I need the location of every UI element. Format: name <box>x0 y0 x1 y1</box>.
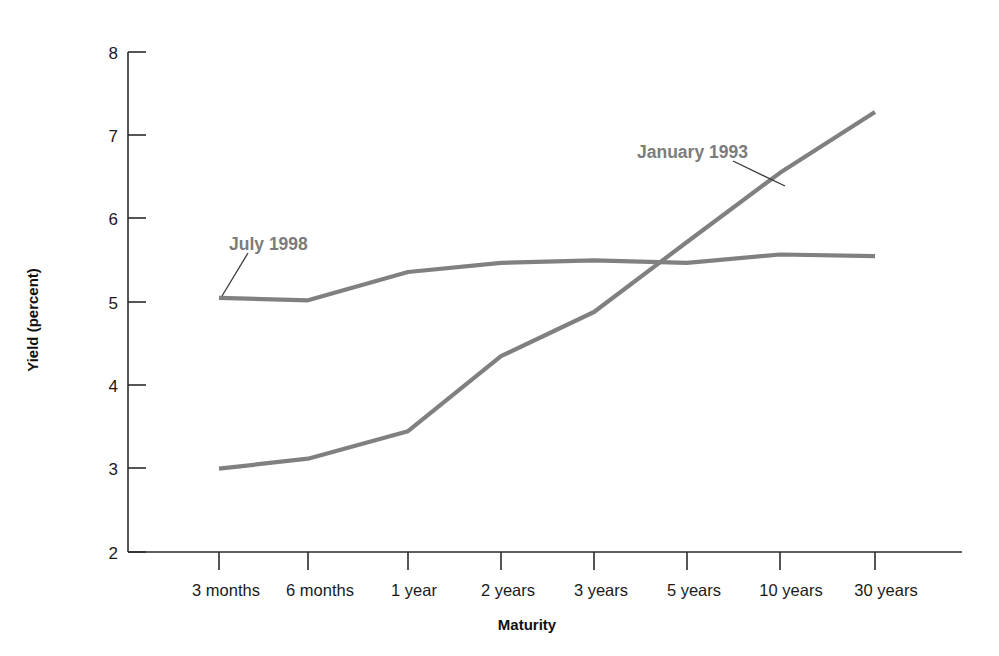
x-tick-label-10-years: 10 years <box>759 581 822 599</box>
x-tick-label-5-years: 5 years <box>667 581 721 599</box>
y-axis-title: Yield (percent) <box>24 268 41 372</box>
y-tick-label-4: 4 <box>109 377 118 396</box>
series-line-january-1993 <box>219 112 875 469</box>
x-tick-label-30-years: 30 years <box>854 581 917 599</box>
series-lines <box>219 112 875 469</box>
x-axis-title: Maturity <box>498 616 557 633</box>
x-tick-label-3-years: 3 years <box>574 581 628 599</box>
y-tick-label-7: 7 <box>109 127 118 146</box>
july-1998-leader-line <box>222 253 248 296</box>
y-tick-label-2: 2 <box>109 544 118 563</box>
y-tick-label-3: 3 <box>109 460 118 479</box>
x-tick-label-2-years: 2 years <box>481 581 535 599</box>
chart-plot-area: 8 7 6 5 4 3 2 3 months 6 months 1 year 2… <box>0 0 999 656</box>
y-tick-label-5: 5 <box>109 294 118 313</box>
x-axis-ticks <box>219 552 875 570</box>
x-tick-label-1-year: 1 year <box>391 581 437 599</box>
july-1998-annotation: July 1998 <box>229 234 308 254</box>
x-tick-label-6-months: 6 months <box>286 581 354 599</box>
y-tick-label-6: 6 <box>109 210 118 229</box>
y-axis-ticks <box>128 52 146 552</box>
x-axis-tick-labels: 3 months 6 months 1 year 2 years 3 years… <box>192 581 918 599</box>
y-axis-tick-labels: 8 7 6 5 4 3 2 <box>109 44 118 563</box>
series-line-july-1998 <box>219 255 875 301</box>
yield-curve-chart: 8 7 6 5 4 3 2 3 months 6 months 1 year 2… <box>0 0 999 656</box>
x-tick-label-3-months: 3 months <box>192 581 260 599</box>
y-tick-label-8: 8 <box>109 44 118 63</box>
january-1993-annotation: January 1993 <box>637 142 748 162</box>
